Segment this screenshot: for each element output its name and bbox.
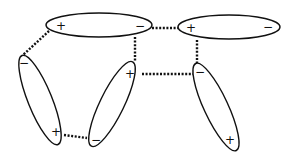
positive-charge-label: +: [125, 67, 135, 81]
negative-charge-label: −: [135, 19, 145, 33]
negative-charge-label: −: [91, 133, 101, 147]
positive-charge-label: +: [225, 133, 235, 147]
dipoles: +−+−+−+−+−: [11, 13, 280, 156]
positive-charge-label: +: [51, 125, 61, 139]
negative-charge-label: −: [195, 65, 205, 79]
dipole-a: +−: [46, 13, 152, 37]
dotted-link-Apos-Cneg: [23, 31, 49, 55]
positive-charge-label: +: [186, 21, 196, 35]
negative-charge-label: −: [263, 20, 273, 34]
dipole-d: +−: [81, 56, 144, 151]
dotted-link-Cpos-Dneg: [64, 135, 87, 138]
positive-charge-label: +: [56, 19, 66, 33]
dipole-e: +−: [185, 58, 247, 155]
dipole-c: +−: [11, 51, 69, 149]
dipole-interaction-diagram: +−+−+−+−+−: [0, 0, 293, 159]
dipole-b: +−: [178, 15, 280, 39]
negative-charge-label: −: [19, 56, 29, 70]
